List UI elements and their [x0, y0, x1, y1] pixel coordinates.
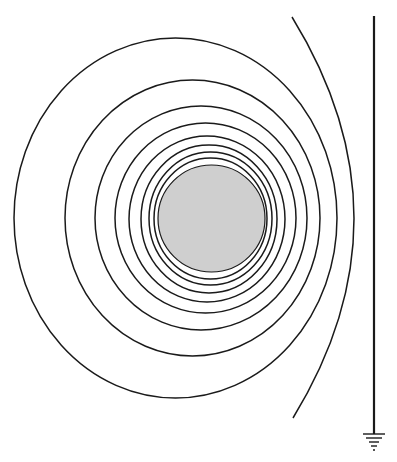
open-equipotential-arc: [292, 17, 354, 418]
diagram-canvas: [0, 0, 397, 462]
charged-sphere: [158, 165, 265, 272]
ground-icon: [363, 434, 385, 451]
sphere-plane-field-diagram: [0, 0, 397, 462]
ground-dot: [373, 449, 375, 451]
